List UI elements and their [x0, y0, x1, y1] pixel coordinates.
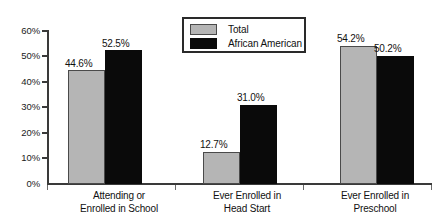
category-label-line-1: Ever Enrolled in: [311, 190, 439, 203]
y-tick-label-50: 50%: [2, 50, 40, 61]
y-tick-group-30: 30%: [0, 101, 40, 113]
y-tick-label-20: 20%: [2, 127, 40, 138]
y-tick-group-60: 60%: [0, 25, 40, 37]
y-tick-group-20: 20%: [0, 127, 40, 139]
y-tick-label-40: 40%: [2, 76, 40, 87]
bar-value-african-3: 50.2%: [374, 43, 401, 54]
bar-value-african-2: 31.0%: [237, 92, 264, 103]
chart-legend: Total African American: [182, 17, 306, 53]
y-tick-label-30: 30%: [2, 101, 40, 112]
bar-african-american-attending-or-enrolled-in-school: [105, 50, 142, 184]
bar-value-total-1: 44.6%: [65, 58, 92, 69]
legend-swatch-total-icon: [190, 24, 217, 35]
legend-swatch-african-american-icon: [190, 38, 217, 49]
bar-value-total-3: 54.2%: [337, 33, 364, 44]
bar-value-total-2: 12.7%: [200, 139, 227, 150]
bar-total-attending-or-enrolled-in-school: [68, 70, 105, 184]
category-label-line-1: Ever Enrolled in: [183, 190, 311, 203]
legend-entry-total: Total: [190, 23, 249, 36]
bar-total-ever-enrolled-in-head-start: [203, 152, 240, 184]
category-label-ever-enrolled-in-head-start: Ever Enrolled in Head Start: [183, 190, 311, 215]
x-tick-mark-start: [47, 185, 48, 190]
bar-chart: 60% 50% 40% 30% 20% 10% 0% 44.6% 52.5% 1…: [0, 0, 440, 221]
bar-total-ever-enrolled-in-preschool: [340, 46, 377, 184]
category-label-ever-enrolled-in-preschool: Ever Enrolled in Preschool: [311, 190, 439, 215]
bar-african-american-ever-enrolled-in-preschool: [377, 56, 414, 184]
category-label-line-1: Attending or: [55, 190, 183, 203]
y-tick-label-10: 10%: [2, 152, 40, 163]
plot-area: 44.6% 52.5% 12.7% 31.0% 54.2% 50.2%: [48, 31, 432, 184]
bar-african-american-ever-enrolled-in-head-start: [240, 105, 277, 184]
y-tick-group-0: 0%: [0, 178, 40, 190]
category-label-line-2: Head Start: [183, 203, 311, 216]
y-tick-label-60: 60%: [2, 25, 40, 36]
category-label-attending-or-enrolled-in-school: Attending or Enrolled in School: [55, 190, 183, 215]
bar-value-african-1: 52.5%: [102, 38, 129, 49]
legend-entry-african-american: African American: [190, 37, 302, 50]
y-tick-group-10: 10%: [0, 152, 40, 164]
category-label-line-2: Enrolled in School: [55, 203, 183, 216]
category-label-line-2: Preschool: [311, 203, 439, 216]
legend-label-total: Total: [228, 24, 249, 35]
y-tick-group-50: 50%: [0, 50, 40, 62]
y-tick-label-0: 0%: [2, 178, 40, 189]
legend-label-african-american: African American: [228, 38, 302, 49]
y-tick-group-40: 40%: [0, 76, 40, 88]
